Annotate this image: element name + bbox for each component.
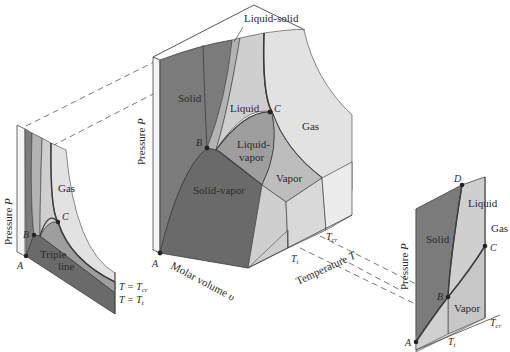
- pv-label-triple-1: Triple: [40, 248, 67, 260]
- label-solid: Solid: [178, 92, 202, 104]
- pv-point-A: [24, 254, 28, 258]
- pt-label-t-cr: Tcr: [490, 317, 502, 330]
- pt-label-gas: Gas: [491, 222, 508, 234]
- axis-molar-volume: Molar volume υ: [169, 259, 237, 303]
- pv-iso-t: T = Tt: [119, 294, 145, 307]
- label-liquid-vapor-2: vapor: [239, 151, 264, 163]
- pv-projection: A B C Gas Triple line Pressure P T = Tcr…: [2, 125, 148, 314]
- point-A: [158, 251, 163, 256]
- label-vapor: Vapor: [276, 172, 303, 184]
- pv-point-B: [32, 233, 36, 237]
- pt-label-A: A: [404, 337, 412, 348]
- label-point-C: C: [274, 103, 281, 114]
- label-liquid-solid: Liquid-solid: [244, 12, 299, 24]
- pt-axis-pressure: Pressure P: [398, 243, 410, 290]
- pv-axis-pressure: Pressure P: [2, 198, 14, 245]
- axis-pressure: Pressure P: [135, 118, 147, 165]
- pt-label-t-t: Tt: [448, 336, 457, 349]
- label-point-A: A: [151, 258, 159, 269]
- pt-label-vapor: Vapor: [454, 302, 481, 314]
- pv-label-A: A: [16, 260, 24, 271]
- pv-label-triple-2: line: [58, 260, 75, 272]
- main-surface: Solid Liquid Gas Liquid- vapor Vapor Sol…: [135, 5, 358, 303]
- label-gas: Gas: [302, 120, 319, 132]
- pt-point-C: [483, 244, 488, 249]
- label-liquid: Liquid: [230, 102, 260, 114]
- pv-iso-cr: T = Tcr: [119, 281, 148, 294]
- label-t-cr: Tcr: [326, 231, 338, 244]
- pv-label-B: B: [23, 229, 29, 240]
- pv-label-gas: Gas: [58, 182, 75, 194]
- pt-point-B: [446, 295, 451, 300]
- label-solid-vapor: Solid-vapor: [193, 184, 245, 196]
- pt-label-liquid: Liquid: [468, 197, 498, 209]
- label-t-t: Tt: [291, 253, 300, 266]
- pv-point-C: [56, 220, 60, 224]
- pt-label-D: D: [453, 173, 462, 184]
- pt-label-solid: Solid: [426, 233, 450, 245]
- pt-projection: A B C D Solid Liquid Gas Vapor Pressure …: [398, 173, 508, 352]
- pv-label-C: C: [62, 211, 69, 222]
- pt-label-C: C: [490, 242, 497, 253]
- pt-label-B: B: [437, 291, 443, 302]
- label-liquid-vapor-1: Liquid-: [237, 138, 270, 150]
- point-B: [205, 146, 210, 151]
- pvt-diagram: Solid Liquid Gas Liquid- vapor Vapor Sol…: [0, 0, 510, 352]
- axis-temperature: Temperature T: [294, 248, 358, 286]
- point-C: [268, 110, 273, 115]
- label-point-B: B: [196, 137, 202, 148]
- pt-point-A: [414, 340, 419, 345]
